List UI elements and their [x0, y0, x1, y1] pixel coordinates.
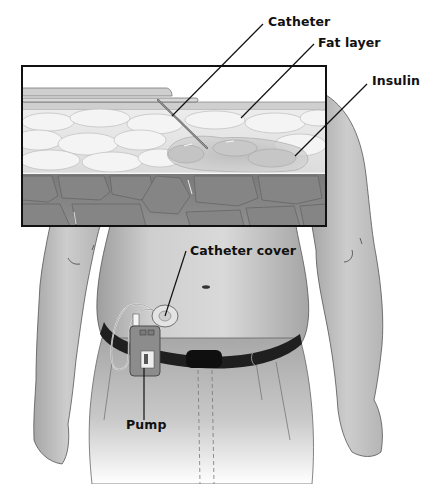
label-pump: Pump — [126, 417, 166, 432]
skin-cross-section-inset — [14, 66, 336, 226]
skin-surface — [22, 102, 326, 110]
label-fat-layer: Fat layer — [318, 35, 381, 50]
catheter-base — [22, 88, 172, 96]
illustration — [0, 0, 430, 484]
label-catheter-cover: Catheter cover — [190, 243, 296, 258]
tube-connector — [133, 314, 139, 326]
label-catheter: Catheter — [268, 14, 330, 29]
insulin-pump-diagram: Catheter Fat layer Insulin Catheter cove… — [0, 0, 430, 484]
navel — [202, 285, 210, 289]
insulin-pump — [130, 326, 160, 376]
belt-buckle — [186, 350, 222, 368]
catheter-tube-segment — [22, 98, 198, 102]
label-insulin: Insulin — [372, 73, 420, 88]
